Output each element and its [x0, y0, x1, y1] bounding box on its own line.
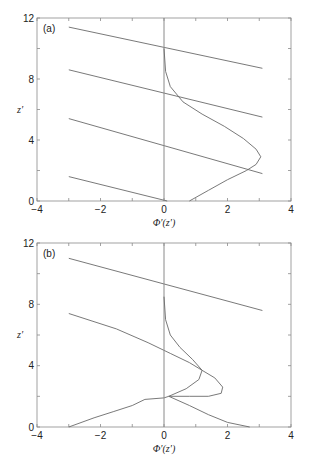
panel-label: (b) [43, 248, 55, 259]
panel-label: (a) [43, 23, 55, 34]
series-line-3 [69, 119, 263, 174]
x-axis-label: Φ′(z′) [153, 443, 176, 455]
y-axis-label: z′ [16, 329, 24, 340]
x-tick-label: 4 [288, 204, 294, 215]
x-tick-label: −2 [95, 430, 107, 441]
x-axis-label: Φ′(z′) [153, 217, 176, 229]
y-tick-label: 0 [28, 422, 34, 433]
y-axis-label: z′ [16, 104, 24, 115]
series-line-4 [69, 177, 167, 201]
y-tick-label: 12 [23, 13, 35, 24]
x-tick-label: 2 [225, 430, 231, 441]
y-tick-label: 4 [28, 360, 34, 371]
series-profile [164, 297, 202, 397]
x-tick-label: −2 [95, 204, 107, 215]
series-line-2 [69, 70, 263, 117]
y-tick-label: 8 [28, 299, 34, 310]
figure: −4−202404812(a)z′Φ′(z′)−4−202404812(b)z′… [0, 0, 309, 466]
series-line-3 [69, 396, 250, 427]
chart-panel-b: −4−202404812(b)z′Φ′(z′) [16, 238, 294, 456]
y-tick-label: 12 [23, 238, 35, 249]
y-tick-label: 0 [28, 196, 34, 207]
series-line-1 [69, 27, 263, 68]
chart-panel-a: −4−202404812(a)z′Φ′(z′) [16, 13, 294, 230]
x-tick-label: 0 [161, 204, 167, 215]
series-profile [164, 49, 261, 202]
x-tick-label: 2 [225, 204, 231, 215]
x-tick-label: 0 [161, 430, 167, 441]
series-line-2 [69, 314, 223, 397]
y-tick-label: 4 [28, 135, 34, 146]
x-tick-label: 4 [288, 430, 294, 441]
series-line-1 [69, 258, 263, 310]
y-tick-label: 8 [28, 74, 34, 85]
